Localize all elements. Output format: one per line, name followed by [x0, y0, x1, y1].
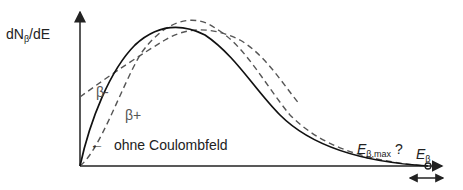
x-axis-label: Eβ — [416, 146, 431, 164]
no-coulomb-label: ohne Coulombfeld — [114, 137, 228, 153]
beta-minus-curve — [80, 30, 300, 105]
arrow-left-icon: ← — [90, 136, 104, 152]
beta-minus-label: β- — [96, 84, 109, 100]
emax-label: Eβ,max ? — [357, 141, 403, 159]
beta-plus-label: β+ — [125, 107, 141, 123]
beta-spectrum-diagram — [0, 0, 463, 190]
y-axis-label: dNβ/dE — [6, 26, 50, 44]
